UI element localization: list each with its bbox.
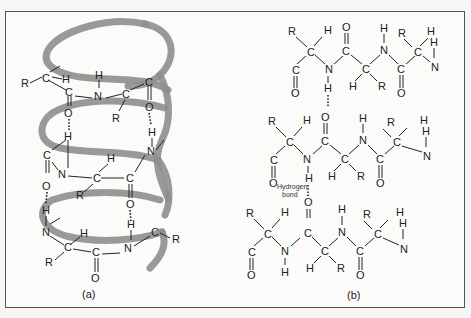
hydrogen-bond	[149, 113, 151, 125]
atom-h: H	[422, 125, 430, 137]
atom-o: O	[397, 87, 406, 99]
atom-r: R	[288, 25, 296, 37]
atom-c: C	[286, 136, 294, 148]
atom-c: C	[376, 153, 384, 165]
atom-c: C	[307, 46, 315, 58]
atom-c: C	[264, 228, 272, 240]
atom-r: R	[268, 115, 276, 127]
atom-n: N	[124, 242, 132, 254]
atom-h: H	[107, 152, 115, 164]
atom-h: H	[338, 203, 346, 215]
atom-o: O	[304, 196, 313, 208]
atom-h: H	[399, 217, 407, 229]
atom-r: R	[172, 233, 180, 245]
atom-c: C	[292, 64, 300, 76]
atom-r: R	[337, 262, 345, 274]
atom-c: C	[43, 149, 51, 161]
atom-o: O	[321, 111, 330, 123]
atom-n: N	[281, 245, 289, 257]
atom-n: N	[42, 226, 50, 238]
atom-h: H	[281, 266, 289, 278]
atom-h: H	[324, 24, 332, 36]
atom-n: N	[338, 226, 346, 238]
atom-n: N	[359, 134, 367, 146]
atom-c: C	[122, 88, 130, 100]
atom-c: C	[248, 246, 256, 258]
atom-r: R	[398, 27, 406, 39]
atom-h: H	[62, 73, 70, 85]
atom-r: R	[45, 256, 53, 268]
atom-n: N	[431, 61, 439, 73]
figure-canvas: R C H C H N C R C O O H H C N C	[0, 0, 471, 318]
atom-r: R	[363, 208, 371, 220]
atom-o: O	[342, 21, 351, 33]
atom-h: H	[328, 170, 336, 182]
beta-sheet-panel: R H C C O N C O C H R N H	[246, 21, 439, 301]
hydrogen-bond	[46, 192, 47, 204]
atom-n: N	[423, 150, 431, 162]
atom-c: C	[42, 72, 50, 84]
atom-c: C	[304, 227, 312, 239]
atom-o: O	[145, 101, 154, 113]
atom-h: H	[303, 114, 311, 126]
atom-h: H	[95, 69, 103, 81]
atom-h: H	[430, 36, 438, 48]
atom-h: H	[127, 218, 135, 230]
atom-c: C	[126, 172, 134, 184]
atom-c: C	[397, 63, 405, 75]
panel-a-caption: (a)	[82, 288, 95, 300]
atom-c: C	[145, 76, 153, 88]
atom-n: N	[58, 168, 66, 180]
atom-c: C	[321, 135, 329, 147]
alpha-helix-panel: R C H C H N C R C O O H H C N C	[21, 22, 180, 300]
atom-c: C	[356, 245, 364, 257]
strand-2: R H C C O N C O C H R N H	[268, 111, 431, 189]
atom-c: C	[151, 226, 159, 238]
atom-r: R	[76, 189, 84, 201]
atom-c: C	[92, 246, 100, 258]
atom-o: O	[91, 272, 100, 284]
atom-c: C	[270, 154, 278, 166]
atom-r: R	[112, 112, 120, 124]
strand-3: O R H C C O N H C C H R N	[246, 196, 408, 281]
atom-o: O	[291, 87, 300, 99]
atom-c: C	[374, 228, 382, 240]
atom-c: C	[93, 172, 101, 184]
atom-o: O	[126, 198, 135, 210]
atom-n: N	[325, 63, 333, 75]
hydrogen-bond-label: bond	[282, 191, 298, 198]
atom-n: N	[400, 243, 408, 255]
atom-n: N	[303, 153, 311, 165]
atom-h: H	[80, 227, 88, 239]
atom-r: R	[357, 170, 365, 182]
atom-c: C	[64, 241, 72, 253]
atom-h: H	[148, 126, 156, 138]
atom-c: C	[65, 86, 73, 98]
atom-c: C	[414, 46, 422, 58]
strand-1: R H C C O N C O C H R N H	[288, 21, 439, 99]
atom-c: C	[393, 136, 401, 148]
atom-r: R	[246, 207, 254, 219]
hydrogen-bond-label: Hydrogen	[277, 183, 307, 191]
atom-r: R	[378, 80, 386, 92]
atom-o: O	[247, 269, 256, 281]
atom-o: O	[64, 107, 73, 119]
atom-r: R	[21, 77, 29, 89]
atom-h: H	[324, 82, 332, 94]
atom-o: O	[42, 180, 51, 192]
atom-n: N	[94, 90, 102, 102]
atom-h: H	[359, 112, 367, 124]
panel-b-caption: (b)	[347, 289, 360, 301]
atom-h: H	[306, 262, 314, 274]
atom-n: N	[147, 145, 155, 157]
atom-h: H	[349, 80, 357, 92]
atom-c: C	[341, 153, 349, 165]
atom-c: C	[342, 45, 350, 57]
atom-h: H	[380, 22, 388, 34]
atom-c: C	[362, 63, 370, 75]
atom-h: H	[42, 204, 50, 216]
atom-n: N	[380, 44, 388, 56]
atom-h: H	[281, 206, 289, 218]
atom-c: C	[321, 245, 329, 257]
atom-o: O	[376, 177, 385, 189]
